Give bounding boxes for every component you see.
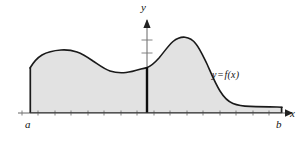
upper-limit-label: b: [276, 119, 282, 130]
curve-equation-rhs: f(x): [224, 69, 239, 80]
area-under-curve-figure: y x a b y=f(x): [0, 0, 303, 141]
lower-limit-label: a: [25, 119, 31, 130]
shaded-region: [30, 37, 282, 113]
figure-canvas: [0, 0, 303, 141]
y-axis-arrowhead: [143, 19, 150, 28]
y-axis-label: y: [141, 2, 146, 13]
curve-equation-lhs: y: [212, 69, 217, 80]
x-axis-label: x: [290, 108, 295, 119]
curve-equation-label: y=f(x): [212, 70, 239, 80]
